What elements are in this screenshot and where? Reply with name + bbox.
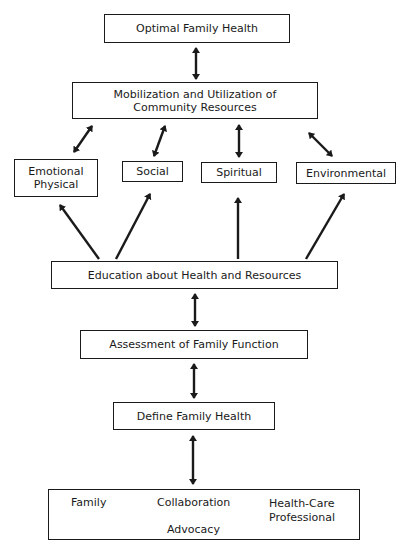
arrow-education-social bbox=[116, 194, 150, 259]
arrow-mobilization-environmental bbox=[309, 133, 332, 156]
node-label-line2: Physical bbox=[34, 178, 79, 191]
label-advocacy: Advocacy bbox=[167, 523, 220, 536]
node-label: Optimal Family Health bbox=[136, 22, 258, 35]
node-label-line1: Mobilization and Utilization of bbox=[114, 88, 277, 101]
node-social: Social bbox=[122, 161, 183, 182]
node-education-health-resources: Education about Health and Resources bbox=[51, 261, 338, 289]
node-emotional-physical: Emotional Physical bbox=[14, 159, 98, 197]
label-family: Family bbox=[71, 496, 106, 509]
arrow-education-emotional bbox=[60, 205, 99, 259]
node-label: Environmental bbox=[306, 167, 386, 180]
label-health-care: Health-Care bbox=[269, 497, 335, 510]
node-label: Spiritual bbox=[216, 166, 262, 179]
arrow-education-environmental bbox=[306, 194, 344, 259]
node-environmental: Environmental bbox=[296, 162, 396, 184]
node-label: Education about Health and Resources bbox=[88, 269, 301, 282]
arrow-mobilization-emotional bbox=[74, 126, 92, 152]
label-professional: Professional bbox=[269, 511, 335, 524]
node-label: Define Family Health bbox=[137, 410, 251, 423]
node-mobilization-community-resources: Mobilization and Utilization of Communit… bbox=[72, 82, 318, 119]
node-define-family-health: Define Family Health bbox=[113, 402, 275, 430]
node-optimal-family-health: Optimal Family Health bbox=[104, 14, 290, 43]
node-spiritual: Spiritual bbox=[201, 162, 277, 183]
arrow-mobilization-social bbox=[154, 126, 165, 156]
node-label-line2: Community Resources bbox=[133, 101, 256, 114]
node-assessment-family-function: Assessment of Family Function bbox=[80, 330, 308, 359]
node-label-line1: Emotional bbox=[28, 165, 83, 178]
label-collaboration: Collaboration bbox=[157, 496, 230, 509]
node-label: Social bbox=[136, 165, 169, 178]
node-label: Assessment of Family Function bbox=[109, 338, 278, 351]
